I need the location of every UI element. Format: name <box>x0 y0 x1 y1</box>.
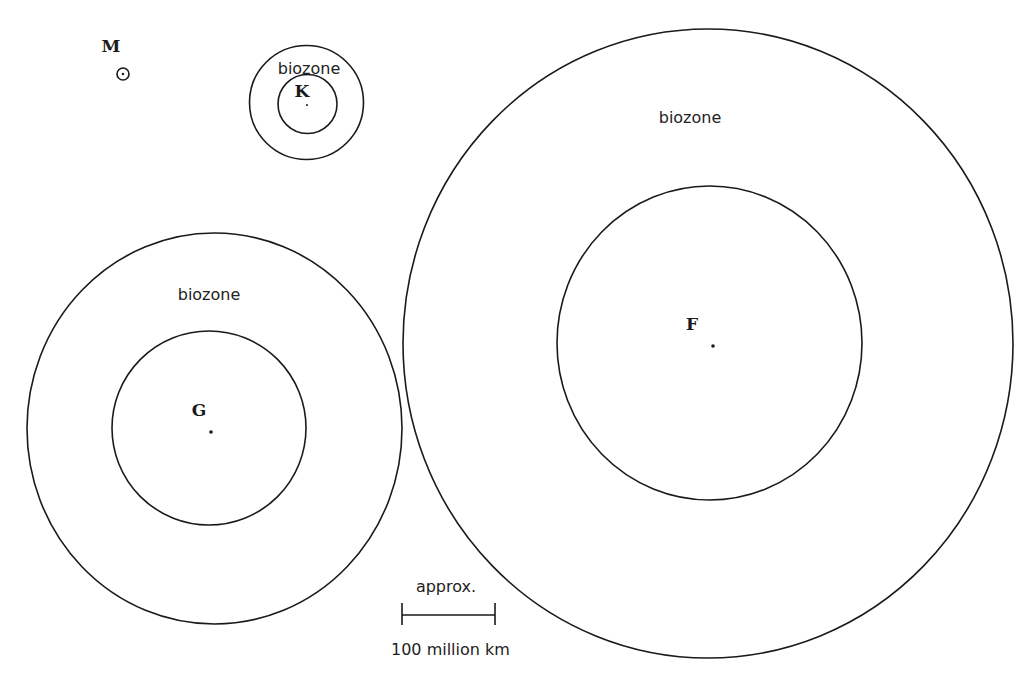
biozone-inner-ring-g <box>112 331 306 525</box>
star-system-f: biozone F <box>403 29 1013 658</box>
star-k-dot <box>306 104 308 106</box>
biozone-label-k: biozone <box>278 59 341 78</box>
scale-bar-top-label: approx. <box>416 577 476 596</box>
star-f-dot <box>711 344 715 348</box>
biozone-label-f: biozone <box>659 108 722 127</box>
star-g-dot <box>209 430 213 434</box>
star-system-m: M <box>102 36 129 80</box>
star-label-m: M <box>102 36 121 56</box>
star-system-k: biozone K <box>250 46 364 160</box>
star-label-g: G <box>192 400 207 420</box>
star-label-k: K <box>295 81 311 101</box>
biozone-label-g: biozone <box>178 285 241 304</box>
star-m-dot <box>122 73 124 75</box>
scale-bar-bottom-label: 100 million km <box>391 640 510 659</box>
star-system-g: biozone G <box>27 233 402 624</box>
scale-bar: approx. 100 million km <box>391 577 510 659</box>
star-label-f: F <box>686 314 698 334</box>
biozone-inner-ring-f <box>557 186 862 500</box>
biozone-diagram: M biozone K biozone G biozone F approx. … <box>0 0 1036 689</box>
